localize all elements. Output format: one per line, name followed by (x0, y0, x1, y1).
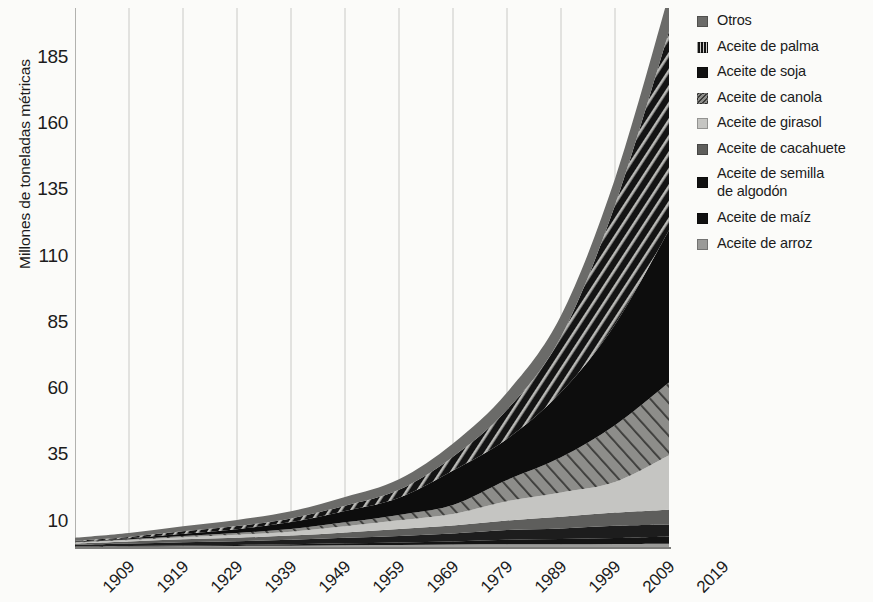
legend-swatch-icon (697, 239, 708, 250)
legend-item-label: Aceite de canola (717, 89, 822, 107)
legend-swatch-icon (697, 213, 708, 224)
chart-legend: OtrosAceite de palmaAceite de sojaAceite… (697, 12, 873, 260)
stacked-area-chart: Millones de toneladas métricas 210185160… (0, 0, 873, 602)
legend-item-aceite-de-palma[interactable]: Aceite de palma (697, 38, 873, 56)
legend-item-label: Aceite de semilla de algodón (717, 165, 824, 200)
legend-swatch-icon (697, 67, 708, 78)
legend-item-aceite-de-cacahuete[interactable]: Aceite de cacahuete (697, 140, 873, 158)
legend-swatch-icon (697, 16, 708, 27)
x-tick-1929: 1929 (207, 557, 247, 597)
legend-item-label: Aceite de soja (717, 63, 806, 81)
legend-item-label: Aceite de girasol (717, 114, 822, 132)
legend-swatch-icon (697, 144, 708, 155)
legend-item-otros[interactable]: Otros (697, 12, 873, 30)
x-tick-1939: 1939 (261, 557, 301, 597)
x-tick-2009: 2009 (639, 557, 679, 597)
legend-item-aceite-de-soja[interactable]: Aceite de soja (697, 63, 873, 81)
x-tick-2019: 2019 (693, 557, 733, 597)
legend-item-aceite-de-ma-z[interactable]: Aceite de maíz (697, 209, 873, 227)
chart-page: Millones de toneladas métricas 210185160… (0, 0, 873, 602)
legend-item-label: Aceite de cacahuete (717, 140, 846, 158)
legend-swatch-icon (697, 93, 708, 104)
x-tick-1949: 1949 (315, 557, 355, 597)
x-tick-1959: 1959 (369, 557, 409, 597)
legend-item-aceite-de-arroz[interactable]: Aceite de arroz (697, 235, 873, 253)
legend-swatch-icon (697, 177, 708, 188)
x-tick-1909: 1909 (99, 557, 139, 597)
legend-item-aceite-de-canola[interactable]: Aceite de canola (697, 89, 873, 107)
legend-swatch-icon (697, 118, 708, 129)
legend-item-aceite-de-semilla-de-algod-n[interactable]: Aceite de semilla de algodón (697, 165, 873, 200)
legend-item-aceite-de-girasol[interactable]: Aceite de girasol (697, 114, 873, 132)
x-tick-1979: 1979 (477, 557, 517, 597)
legend-item-label: Otros (717, 12, 752, 30)
x-tick-1999: 1999 (585, 557, 625, 597)
x-tick-1989: 1989 (531, 557, 571, 597)
x-tick-1969: 1969 (423, 557, 463, 597)
legend-swatch-icon (697, 42, 708, 53)
legend-item-label: Aceite de maíz (717, 209, 811, 227)
x-tick-1919: 1919 (153, 557, 193, 597)
legend-item-label: Aceite de arroz (717, 235, 812, 253)
legend-item-label: Aceite de palma (717, 38, 819, 56)
